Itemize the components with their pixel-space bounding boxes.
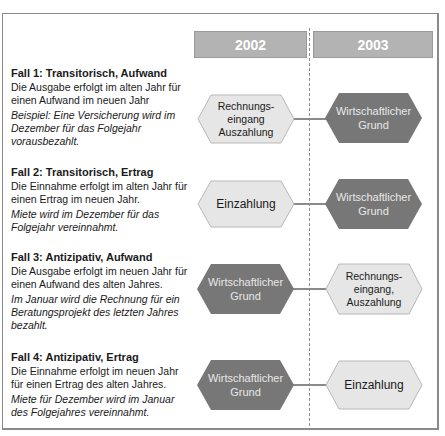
year-divider	[309, 28, 310, 426]
node-label: Rechnungs- eingang Auszahlung	[218, 100, 275, 139]
case-example: Miete für Dezember wird im Januar des Fo…	[11, 393, 191, 419]
case-example: Beispiel: Eine Versicherung wird im Deze…	[11, 109, 191, 148]
node-rechnungseingang: Rechnungs- eingang, Auszahlung	[325, 263, 423, 315]
node-einzahlung: Einzahlung	[325, 360, 423, 410]
node-label: Wirtschaftlicher Grund	[336, 190, 411, 218]
node-wirtschaftlicher-grund: Wirtschaftlicher Grund	[197, 360, 294, 410]
node-rechnungseingang: Rechnungs- eingang Auszahlung	[197, 94, 295, 144]
node-label: Einzahlung	[216, 197, 275, 211]
node-wirtschaftlicher-grund: Wirtschaftlicher Grund	[325, 93, 422, 143]
case-title: Fall 3: Antizipativ, Aufwand	[11, 251, 191, 264]
node-label: Wirtschaftlicher Grund	[208, 275, 283, 303]
case-title: Fall 4: Antizipativ, Ertrag	[11, 351, 191, 364]
connector-line	[290, 203, 330, 205]
case-2: Fall 2: Transitorisch, Ertrag Die Einnah…	[11, 166, 191, 234]
connector-line	[290, 118, 330, 120]
case-description: Die Einnahme erfolgt im neuen Jahr für e…	[11, 365, 191, 391]
year-header-2003: 2003	[313, 31, 433, 58]
node-label: Einzahlung	[344, 378, 403, 392]
connector-line	[290, 288, 330, 290]
node-label: Wirtschaftlicher Grund	[336, 104, 411, 132]
case-1: Fall 1: Transitorisch, Aufwand Die Ausga…	[11, 67, 191, 148]
node-einzahlung: Einzahlung	[197, 180, 295, 228]
case-description: Die Ausgabe erfolgt im alten Jahr für ei…	[11, 81, 191, 107]
case-title: Fall 1: Transitorisch, Aufwand	[11, 67, 191, 80]
case-description: Die Ausgabe erfolgt im neuen Jahr für ei…	[11, 265, 191, 291]
case-4: Fall 4: Antizipativ, Ertrag Die Einnahme…	[11, 351, 191, 419]
case-example: Miete wird im Dezember für das Folgejahr…	[11, 208, 191, 234]
connector-line	[290, 384, 330, 386]
case-title: Fall 2: Transitorisch, Ertrag	[11, 166, 191, 179]
case-description: Die Einnahme erfolgt im alten Jahr für e…	[11, 180, 191, 206]
year-header-2002: 2002	[194, 31, 307, 58]
node-label: Wirtschaftlicher Grund	[208, 371, 283, 399]
case-3: Fall 3: Antizipativ, Aufwand Die Ausgabe…	[11, 251, 191, 332]
case-example: Im Januar wird die Rechnung für ein Bera…	[11, 293, 191, 332]
node-label: Rechnungs- eingang, Auszahlung	[346, 270, 403, 309]
node-wirtschaftlicher-grund: Wirtschaftlicher Grund	[197, 264, 294, 314]
node-wirtschaftlicher-grund: Wirtschaftlicher Grund	[325, 179, 422, 229]
